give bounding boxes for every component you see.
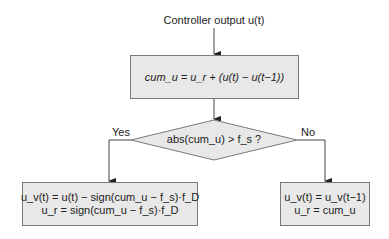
yes-label-text: Yes: [112, 126, 130, 138]
input-label-text: Controller output u(t): [164, 14, 265, 26]
yes-formula-2: u_r = sign(cum_u − f_s)·f_D: [42, 204, 179, 217]
no-box: u_v(t) = u_v(t−1) u_r = cum_u: [280, 182, 370, 226]
no-formula-2: u_r = cum_u: [294, 204, 355, 217]
process-formula: cum_u = u_r + (u(t) − u(t−1)): [145, 71, 284, 84]
no-formula-1: u_v(t) = u_v(t−1): [284, 191, 365, 204]
yes-label: Yes: [112, 126, 130, 138]
yes-box: u_v(t) = u(t) − sign(cum_u − f_s)·f_D u_…: [22, 182, 198, 226]
process-box: cum_u = u_r + (u(t) − u(t−1)): [130, 55, 299, 99]
no-label-text: No: [301, 126, 315, 138]
input-label: Controller output u(t): [0, 14, 389, 26]
decision-formula: abs(cum_u) > f_s ?: [167, 133, 261, 145]
yes-formula-1: u_v(t) = u(t) − sign(cum_u − f_s)·f_D: [21, 191, 199, 204]
no-label: No: [301, 126, 315, 138]
decision-text: abs(cum_u) > f_s ?: [131, 133, 297, 145]
